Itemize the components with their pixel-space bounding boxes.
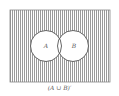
venn-diagram: A B	[0, 0, 119, 84]
diagram-caption: (A ∪ B)′	[0, 84, 119, 91]
set-b-label: B	[71, 42, 77, 49]
set-a-label: A	[43, 42, 49, 49]
